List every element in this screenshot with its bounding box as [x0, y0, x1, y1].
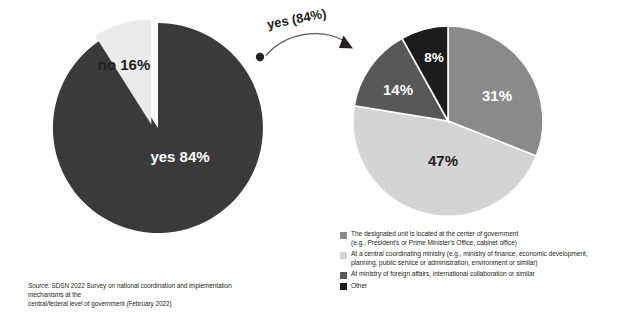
legend-item-line1: At a central coordinating ministry (e.g.…: [351, 250, 588, 257]
legend-item-label: At a central coordinating ministry (e.g.…: [351, 249, 588, 267]
legend-swatch-icon: [340, 232, 347, 239]
legend-item-line2: planning, public service or administrati…: [351, 259, 538, 266]
left-pie-slice-yes[interactable]: [53, 23, 263, 233]
legend-item-line2: (e.g., President's or Prime Minister's O…: [351, 239, 517, 246]
right-pie-label-8: 8%: [424, 50, 444, 65]
right-pie-label-47: 47%: [428, 152, 458, 169]
right-pie-label-31: 31%: [482, 87, 512, 104]
legend-item[interactable]: At a central coordinating ministry (e.g.…: [340, 249, 624, 267]
source-line1: SDSN 2022 Survey on national coordinatio…: [28, 282, 232, 298]
source-line2: central/federal level of government (Feb…: [28, 300, 172, 307]
callout-arrow: yes (84%): [256, 6, 353, 61]
right-pie-label-14: 14%: [383, 81, 413, 98]
legend-item-label: Other: [351, 281, 367, 290]
legend-item-line1: Other: [351, 282, 367, 289]
callout-arrowhead: [339, 36, 353, 49]
callout-label: yes (84%): [266, 6, 328, 32]
left-pie-label-no: no 16%: [98, 56, 151, 73]
chart-figure: yes 84% no 16% yes (84%) 31% 47% 14% 8%: [0, 0, 624, 330]
legend-item-line1: At ministry of foreign affairs, internat…: [351, 270, 535, 277]
legend-swatch-icon: [340, 283, 347, 290]
left-pie-chart: yes 84% no 16%: [53, 20, 263, 233]
legend-item[interactable]: The designated unit is located at the ce…: [340, 229, 624, 247]
source-prefix: Source:: [28, 282, 50, 289]
right-pie-chart: 31% 47% 14% 8%: [353, 26, 543, 216]
legend-swatch-icon: [340, 252, 347, 259]
legend-item[interactable]: Other: [340, 281, 624, 291]
legend-item-label: At ministry of foreign affairs, internat…: [351, 269, 535, 278]
legend: The designated unit is located at the ce…: [340, 229, 624, 292]
legend-item[interactable]: At ministry of foreign affairs, internat…: [340, 269, 624, 279]
left-pie-label-yes: yes 84%: [150, 148, 209, 165]
source-note: Source: SDSN 2022 Survey on national coo…: [28, 281, 268, 309]
legend-swatch-icon: [340, 272, 347, 279]
callout-origin-dot: [256, 53, 264, 61]
legend-item-label: The designated unit is located at the ce…: [351, 229, 518, 247]
callout-curve: [266, 34, 349, 56]
legend-item-line1: The designated unit is located at the ce…: [351, 230, 518, 237]
